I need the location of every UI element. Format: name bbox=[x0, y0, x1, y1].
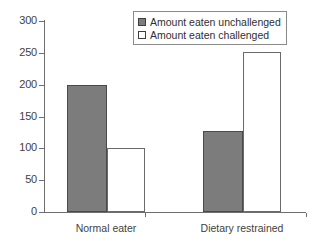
y-tick-label-100: 100 bbox=[3, 142, 37, 153]
y-axis-tick-labels: 050100150200250300 bbox=[0, 0, 37, 246]
legend: Amount eaten unchallenged Amount eaten c… bbox=[133, 11, 287, 45]
y-tick-label-50: 50 bbox=[3, 174, 37, 185]
legend-label-unchallenged: Amount eaten unchallenged bbox=[150, 16, 281, 28]
legend-label-challenged: Amount eaten challenged bbox=[150, 29, 269, 41]
y-tick-0 bbox=[39, 212, 44, 213]
x-category-label-1: Normal eater bbox=[46, 222, 166, 234]
legend-swatch-hollow-icon bbox=[138, 31, 146, 39]
legend-item-challenged: Amount eaten challenged bbox=[138, 28, 281, 41]
y-tick-label-250: 250 bbox=[3, 47, 37, 58]
bar-2-challenged bbox=[243, 52, 281, 212]
x-tick-2 bbox=[306, 213, 307, 217]
y-tick-label-300: 300 bbox=[3, 15, 37, 26]
x-category-label-2: Dietary restrained bbox=[182, 222, 302, 234]
y-tick-label-0: 0 bbox=[3, 206, 37, 217]
legend-item-unchallenged: Amount eaten unchallenged bbox=[138, 15, 281, 28]
bar-2-unchallenged bbox=[203, 131, 243, 212]
x-tick-1 bbox=[145, 213, 146, 217]
bar-chart: 050100150200250300 Normal eaterDietary r… bbox=[0, 0, 318, 246]
legend-swatch-filled-icon bbox=[138, 18, 146, 26]
plot-area bbox=[44, 21, 306, 212]
bar-1-unchallenged bbox=[67, 85, 107, 212]
y-tick-label-150: 150 bbox=[3, 111, 37, 122]
x-axis-line bbox=[44, 212, 306, 213]
bar-1-challenged bbox=[107, 148, 145, 212]
y-tick-label-200: 200 bbox=[3, 79, 37, 90]
